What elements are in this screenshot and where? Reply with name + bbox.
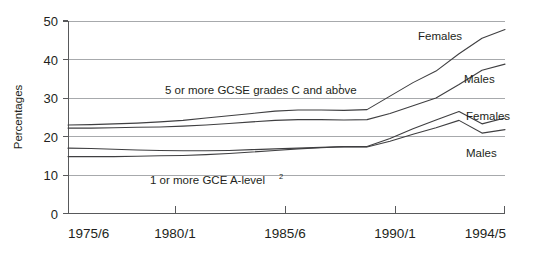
alevel-males-label: Males: [466, 147, 497, 159]
y-tick-label-30: 30: [44, 91, 58, 106]
alevel-females-label: Females: [466, 110, 510, 122]
alevel-annotation-label: 1 or more GCE A-level: [150, 174, 265, 186]
y-axis-title: Percentages: [12, 84, 24, 149]
line-chart: 50 40 30 20 10 0 1975/6 1980/1 1985/6 19…: [0, 0, 546, 261]
x-tick-label-1985-6: 1985/6: [264, 226, 305, 241]
alevel-annotation: 1 or more GCE A-level 2: [150, 172, 283, 186]
y-tick-label-20: 20: [44, 130, 58, 145]
y-tick-label-40: 40: [44, 53, 58, 68]
y-tick-label-50: 50: [44, 14, 58, 29]
chart-container: 50 40 30 20 10 0 1975/6 1980/1 1985/6 19…: [0, 0, 546, 261]
x-tick-label-1994-5: 1994/5: [465, 226, 506, 241]
y-tick-label-10: 10: [44, 168, 58, 183]
gcse-annotation-superscript: 1: [338, 82, 342, 91]
x-tick-label-1980-1: 1980/1: [154, 226, 195, 241]
gcse-females-label: Females: [418, 30, 462, 42]
chart-background: [0, 0, 546, 261]
gcse-annotation: 5 or more GCSE grades C and above 1: [165, 82, 357, 96]
gcse-males-label: Males: [464, 73, 495, 85]
alevel-annotation-superscript: 2: [279, 172, 283, 181]
gcse-annotation-label: 5 or more GCSE grades C and above: [165, 84, 357, 96]
x-tick-label-1975-6: 1975/6: [68, 226, 109, 241]
y-tick-label-0: 0: [51, 207, 58, 222]
x-tick-label-1990-1: 1990/1: [374, 226, 415, 241]
